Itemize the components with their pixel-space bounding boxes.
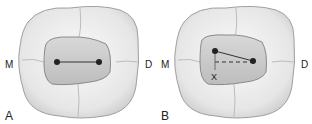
- panel-letter-a: A: [5, 109, 13, 123]
- panel-b: X M D B: [161, 6, 308, 123]
- label-x: X: [211, 72, 217, 82]
- panel-letter-b: B: [161, 109, 169, 123]
- point-mesial-b: [212, 48, 218, 54]
- label-mesial-a: M: [5, 59, 13, 70]
- diagram: M D A X M D B: [0, 0, 312, 124]
- restoration-b: [200, 35, 267, 85]
- point-distal-b: [250, 58, 256, 64]
- label-distal-b: D: [301, 59, 308, 70]
- point-distal-a: [96, 59, 102, 65]
- point-mesial-a: [54, 59, 60, 65]
- label-mesial-b: M: [161, 59, 169, 70]
- label-distal-a: D: [145, 59, 152, 70]
- panel-a: M D A: [5, 6, 152, 123]
